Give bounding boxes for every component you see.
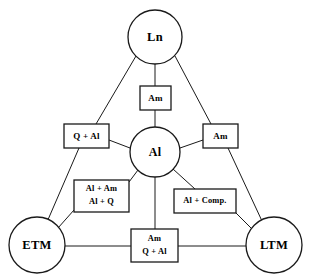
label-box-al-comp-text: Al + Comp. <box>183 196 226 205</box>
edge-al-am-al-q-box-to-etm <box>58 210 74 228</box>
node-etm-label: ETM <box>22 238 51 252</box>
label-box-am-right[interactable]: Am <box>203 124 238 148</box>
edge-al-to-q-al-box <box>109 140 130 148</box>
label-box-q-al-left-text: Q + Al <box>73 131 100 141</box>
node-al[interactable]: Al <box>130 127 180 177</box>
edge-al-to-al-comp-box <box>173 169 195 189</box>
label-box-am-right-text: Am <box>213 131 228 141</box>
edge-ln-to-am-right-box <box>175 56 211 124</box>
label-box-q-al-left[interactable]: Q + Al <box>64 124 109 148</box>
label-box-am-top[interactable]: Am <box>140 86 171 110</box>
node-ln[interactable]: Ln <box>128 10 182 64</box>
label-box-al-am-al-q-line2: Al + Q <box>89 197 114 206</box>
edge-ln-to-q-al-box <box>96 56 136 124</box>
label-box-am-top-text: Am <box>148 93 163 103</box>
label-box-al-comp[interactable]: Al + Comp. <box>174 189 236 213</box>
diagram-canvas: Am Q + Al Am Al + Am Al + Q Al + Com <box>0 0 313 278</box>
label-box-am-q-al-bottom[interactable]: Am Q + Al <box>131 229 178 262</box>
node-ltm[interactable]: LTM <box>246 217 302 273</box>
edge-al-to-am-right-box <box>180 140 203 148</box>
label-box-al-am-al-q-line1: Al + Am <box>86 184 117 193</box>
label-box-al-am-al-q[interactable]: Al + Am Al + Q <box>74 180 129 212</box>
label-box-am-q-al-bottom-line2: Q + Al <box>142 247 167 256</box>
label-box-am-q-al-bottom-line1: Am <box>148 234 161 243</box>
node-ln-label: Ln <box>147 30 163 44</box>
edge-al-to-al-am-al-q-box <box>129 170 138 182</box>
node-etm[interactable]: ETM <box>9 217 65 273</box>
diagram-svg: Am Q + Al Am Al + Am Al + Q Al + Com <box>0 0 313 278</box>
node-al-label: Al <box>149 145 162 159</box>
node-ltm-label: LTM <box>260 238 288 252</box>
